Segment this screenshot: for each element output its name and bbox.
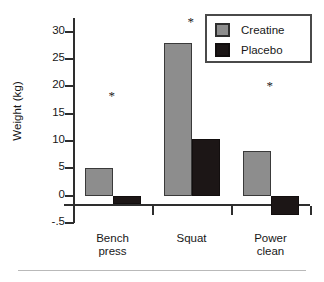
y-tick-mark bbox=[65, 113, 74, 115]
y-tick-label: 10 bbox=[31, 133, 65, 145]
bar-placebo-power-clean bbox=[271, 196, 299, 215]
y-tick-label: 25 bbox=[31, 51, 65, 63]
y-axis-title: Weight (kg) bbox=[11, 61, 23, 161]
y-tick-label: 20 bbox=[31, 78, 65, 90]
y-axis-spine bbox=[73, 18, 75, 223]
category-label-power-clean: Powerclean bbox=[226, 232, 316, 258]
y-tick-mark bbox=[65, 31, 74, 33]
category-label-squat: Squat bbox=[147, 232, 237, 245]
legend-swatch-creatine bbox=[215, 23, 230, 37]
y-tick-mark bbox=[65, 85, 74, 87]
y-tick-label: 30 bbox=[31, 24, 65, 36]
legend-label-creatine: Creatine bbox=[241, 24, 284, 36]
x-tick-mark bbox=[231, 206, 233, 215]
y-tick-mark bbox=[65, 140, 74, 142]
significance-asterisk: * bbox=[267, 79, 274, 92]
x-tick-mark bbox=[73, 206, 75, 215]
bar-creatine-squat bbox=[164, 43, 192, 196]
bar-placebo-squat bbox=[192, 139, 220, 195]
category-label-line: clean bbox=[226, 245, 316, 258]
category-label-bench-press: Benchpress bbox=[68, 232, 158, 258]
category-label-line: Power bbox=[226, 232, 316, 245]
chart-legend: Creatine Placebo bbox=[205, 14, 312, 63]
bar-creatine-power-clean bbox=[243, 151, 271, 196]
y-tick-mark bbox=[65, 222, 74, 224]
y-tick-label: -.5 bbox=[31, 215, 65, 227]
x-tick-mark bbox=[152, 206, 154, 215]
bottom-divider bbox=[18, 270, 306, 271]
bar-placebo-bench-press bbox=[113, 196, 141, 204]
significance-asterisk: * bbox=[109, 89, 116, 102]
legend-item-creatine: Creatine bbox=[215, 22, 284, 38]
y-tick-mark bbox=[65, 195, 74, 197]
x-tick-mark bbox=[310, 206, 312, 215]
y-tick-label: 15 bbox=[31, 106, 65, 118]
category-label-line: Bench bbox=[68, 232, 158, 245]
category-label-line: press bbox=[68, 245, 158, 258]
category-label-line: Squat bbox=[147, 232, 237, 245]
y-tick-mark bbox=[65, 58, 74, 60]
bar-creatine-bench-press bbox=[85, 168, 113, 195]
bar-chart-figure: Weight (kg) 302520151050-.5 *** Benchpre… bbox=[0, 0, 324, 282]
y-tick-mark bbox=[65, 167, 74, 169]
significance-asterisk: * bbox=[188, 15, 195, 28]
legend-swatch-placebo bbox=[215, 43, 230, 57]
y-tick-label: 5 bbox=[31, 160, 65, 172]
legend-item-placebo: Placebo bbox=[215, 42, 283, 58]
legend-label-placebo: Placebo bbox=[241, 44, 283, 56]
y-tick-label: 0 bbox=[31, 188, 65, 200]
